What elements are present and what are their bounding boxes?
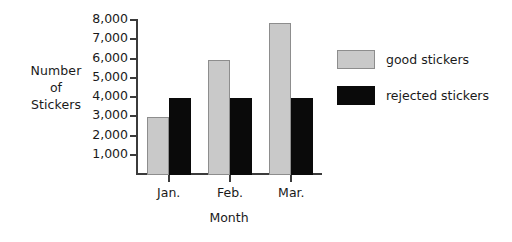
y-axis-tick-label: 7,000 [72,30,128,45]
legend-swatch-icon [337,86,375,105]
y-axis-tick [130,154,137,156]
x-axis-title: Month [136,210,322,225]
x-axis-tick-label: Jan. [137,185,201,200]
bar-feb-good [208,60,230,176]
legend-item-good-stickers: good stickers [337,46,489,72]
y-axis-tick [130,38,137,40]
y-axis-tick-label: 8,000 [72,11,128,26]
y-axis-tick [130,135,137,137]
y-axis-tick [130,58,137,60]
x-axis-tick [290,175,292,182]
y-axis-tick [130,96,137,98]
y-axis-tick-label: 1,000 [72,146,128,161]
bar-mar-rejected [291,98,313,175]
y-axis-tick [130,19,137,21]
legend-item-rejected-stickers: rejected stickers [337,82,489,108]
x-axis-tick-label: Mar. [259,185,323,200]
chart-legend: good stickersrejected stickers [337,46,489,118]
bar-feb-rejected [230,98,252,175]
x-axis-tick [229,175,231,182]
bar-mar-good [269,23,291,175]
bar-chart: Number of Stickers 1,0002,0003,0004,0005… [0,0,512,242]
y-axis-tick [130,115,137,117]
legend-swatch-icon [337,50,375,69]
bar-jan-good [147,117,169,175]
y-axis-tick [130,77,137,79]
legend-label: rejected stickers [386,88,489,103]
y-axis-tick-label: 3,000 [72,107,128,122]
bar-jan-rejected [169,98,191,175]
x-axis-tick-label: Feb. [198,185,262,200]
y-axis-tick-label: 6,000 [72,50,128,65]
bars-layer [138,20,322,175]
y-axis-tick-label: 5,000 [72,69,128,84]
x-axis-tick [168,175,170,182]
y-axis-tick-label: 4,000 [72,88,128,103]
legend-label: good stickers [386,52,469,67]
y-axis-tick-label: 2,000 [72,127,128,142]
